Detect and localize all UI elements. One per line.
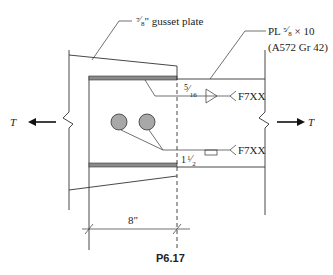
weld-symbol-bottom xyxy=(121,130,236,155)
bolt-hole-1 xyxy=(111,114,127,130)
gusset-text: " gusset plate xyxy=(145,15,204,27)
weld-top-electrode: F7XX xyxy=(238,90,266,102)
weld-bottom-electrode: F7XX xyxy=(238,144,266,156)
weld-top xyxy=(89,76,177,80)
plate-label-line2: (A572 Gr 42) xyxy=(268,41,328,54)
plate-leader xyxy=(210,31,266,79)
plate-label-line1: PL 5⁄8 × 10 xyxy=(268,24,315,38)
force-label-left: T xyxy=(10,116,17,128)
connection-diagram: 7⁄8" gusset plate PL 5⁄8 × 10 (A572 Gr 4… xyxy=(0,0,333,275)
gusset-label: 7⁄8" gusset plate xyxy=(136,14,204,28)
weld-bottom-size: 11⁄2 xyxy=(181,153,196,168)
force-label-right: T xyxy=(308,116,315,128)
force-arrow-left xyxy=(28,118,56,126)
dimension-label: 8" xyxy=(128,214,138,226)
figure-caption: P6.17 xyxy=(156,252,185,264)
weld-top-size: 5⁄16 xyxy=(184,83,197,99)
force-arrow-right xyxy=(277,118,305,126)
gusset-leader xyxy=(92,21,132,60)
bolt-hole-2 xyxy=(139,114,155,130)
weld-bottom xyxy=(89,163,177,167)
